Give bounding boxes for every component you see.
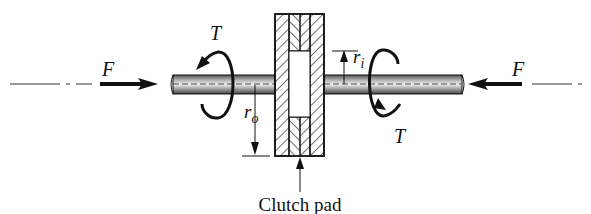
right-shaft — [324, 75, 464, 94]
clutch-pad — [289, 14, 310, 156]
torque-label-right: T — [394, 125, 407, 147]
clutch-diagram: F F T T ro ri Clutch pad — [0, 0, 591, 214]
clutch-pad-caption: Clutch pad — [259, 194, 342, 214]
inner-radius-label: ri — [353, 46, 364, 71]
clutch-pad-leader — [296, 157, 304, 192]
outer-radius-label: ro — [244, 101, 258, 126]
force-label-right: F — [511, 58, 525, 80]
clutch-plates — [275, 14, 324, 156]
force-label-left: F — [101, 58, 115, 80]
torque-label-left: T — [210, 22, 223, 44]
left-shaft — [171, 75, 275, 94]
